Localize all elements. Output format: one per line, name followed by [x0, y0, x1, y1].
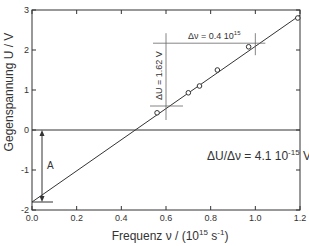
y-tick-label: -2 [21, 205, 29, 215]
y-tick-label: 1 [24, 85, 29, 95]
x-tick-label: 0.8 [204, 213, 217, 223]
data-point [197, 84, 202, 89]
x-tick-label: 0.6 [160, 213, 173, 223]
delta-nu-label: Δν = 0.4 1015 [188, 30, 241, 41]
annotations [32, 33, 265, 202]
data-point [186, 91, 191, 96]
y-tick-label: -1 [21, 165, 29, 175]
chart: 0.00.20.40.60.81.01.2 -2-10123 Gegenspan… [0, 0, 309, 246]
arrow-up-icon [40, 130, 45, 136]
x-tick-label: 1.2 [294, 213, 307, 223]
data-point [295, 16, 300, 21]
y-axis-label: Gegenspannung U / V [2, 33, 16, 152]
intercept-label: A [47, 160, 54, 171]
slope-label: ΔU/Δν = 4.1 10-15 Vs [207, 148, 309, 163]
y-tick-label: 3 [24, 5, 29, 15]
x-tick-label: 0.4 [115, 213, 128, 223]
x-tick-label: 0.2 [70, 213, 83, 223]
y-tick-label: 2 [24, 45, 29, 55]
y-axis-ticks: -2-10123 [21, 5, 300, 215]
y-tick-label: 0 [24, 125, 29, 135]
x-axis-label: Frequenz ν / (1015 s-1) [112, 228, 229, 243]
x-tick-label: 1.0 [249, 213, 262, 223]
data-point [246, 45, 251, 50]
data-point [155, 111, 160, 116]
arrow-down-icon [40, 196, 45, 202]
data-point [215, 68, 220, 73]
delta-u-label: ΔU = 1.62 V [154, 51, 164, 100]
